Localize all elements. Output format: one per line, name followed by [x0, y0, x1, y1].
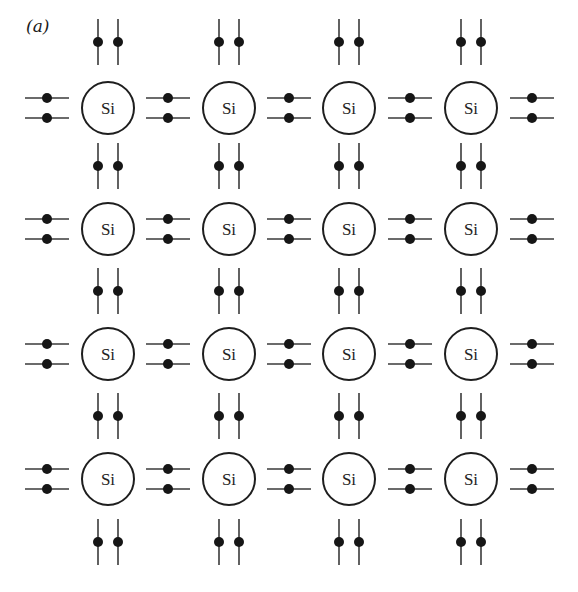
horizontal-bond-pair — [510, 339, 554, 369]
electron-dot — [234, 161, 244, 171]
vertical-bond-pair — [93, 519, 123, 565]
electron-dot — [163, 214, 173, 224]
electron-dot — [42, 214, 52, 224]
horizontal-bond-pair — [388, 339, 432, 369]
horizontal-bond-pair — [510, 214, 554, 244]
atom-symbol: Si — [222, 470, 236, 489]
atom-symbol: Si — [101, 220, 115, 239]
silicon-atom: Si — [203, 328, 255, 380]
atom-symbol: Si — [222, 345, 236, 364]
vertical-bond-pair — [93, 393, 123, 439]
electron-dot — [476, 537, 486, 547]
electron-dot — [234, 286, 244, 296]
vertical-bond-pair — [334, 268, 364, 314]
electron-dot — [163, 113, 173, 123]
electron-dot — [42, 113, 52, 123]
horizontal-bond-pair — [388, 214, 432, 244]
electron-dot — [42, 464, 52, 474]
electron-dot — [476, 161, 486, 171]
electron-dot — [527, 484, 537, 494]
vertical-bond-pair — [214, 143, 244, 189]
vertical-bond-pair — [214, 393, 244, 439]
electron-dot — [334, 37, 344, 47]
silicon-atom: Si — [323, 203, 375, 255]
vertical-bond-pair — [334, 393, 364, 439]
vertical-bond-pair — [334, 19, 364, 65]
silicon-atom: Si — [445, 453, 497, 505]
electron-dot — [163, 464, 173, 474]
electron-dot — [476, 286, 486, 296]
electron-dot — [113, 537, 123, 547]
electron-dot — [405, 113, 415, 123]
horizontal-bond-pair — [388, 464, 432, 494]
atom-symbol: Si — [464, 345, 478, 364]
atom-symbol: Si — [101, 99, 115, 118]
electron-dot — [93, 286, 103, 296]
electron-dot — [354, 161, 364, 171]
electron-dot — [284, 113, 294, 123]
atom-symbol: Si — [464, 470, 478, 489]
vertical-bond-pair — [456, 143, 486, 189]
electron-dot — [163, 234, 173, 244]
electron-dot — [354, 37, 364, 47]
electron-dot — [284, 234, 294, 244]
electron-dot — [527, 93, 537, 103]
vertical-bond-pair — [456, 19, 486, 65]
electron-dot — [163, 339, 173, 349]
electron-dot — [42, 359, 52, 369]
electron-dot — [527, 464, 537, 474]
electron-dot — [113, 286, 123, 296]
electron-dot — [476, 411, 486, 421]
vertical-bond-pair — [334, 519, 364, 565]
vertical-bond-pair — [456, 519, 486, 565]
electron-dot — [527, 339, 537, 349]
atom-symbol: Si — [222, 99, 236, 118]
horizontal-bond-pair — [267, 214, 311, 244]
horizontal-bond-pair — [510, 93, 554, 123]
silicon-atoms: SiSiSiSiSiSiSiSiSiSiSiSiSiSiSiSi — [82, 82, 497, 505]
electron-dot — [214, 161, 224, 171]
atom-symbol: Si — [101, 470, 115, 489]
vertical-bond-pair — [214, 19, 244, 65]
silicon-atom: Si — [323, 328, 375, 380]
electron-dot — [42, 93, 52, 103]
horizontal-bond-pair — [25, 214, 69, 244]
electron-dot — [113, 37, 123, 47]
electron-dot — [234, 411, 244, 421]
silicon-atom: Si — [323, 453, 375, 505]
horizontal-bond-pair — [25, 464, 69, 494]
electron-dot — [93, 161, 103, 171]
silicon-atom: Si — [203, 203, 255, 255]
atom-symbol: Si — [342, 345, 356, 364]
vertical-bond-pair — [93, 19, 123, 65]
horizontal-bond-pair — [146, 93, 190, 123]
electron-dot — [334, 537, 344, 547]
electron-dot — [284, 93, 294, 103]
vertical-bond-pair — [334, 143, 364, 189]
atom-symbol: Si — [464, 99, 478, 118]
electron-dot — [284, 484, 294, 494]
atom-symbol: Si — [464, 220, 478, 239]
silicon-atom: Si — [323, 82, 375, 134]
electron-dot — [405, 234, 415, 244]
electron-dot — [234, 37, 244, 47]
electron-dot — [42, 484, 52, 494]
electron-dot — [354, 286, 364, 296]
electron-dot — [93, 37, 103, 47]
electron-dot — [234, 537, 244, 547]
electron-dot — [405, 484, 415, 494]
horizontal-bond-pair — [146, 214, 190, 244]
vertical-bond-pair — [456, 268, 486, 314]
horizontal-bond-pair — [388, 93, 432, 123]
electron-dot — [113, 161, 123, 171]
vertical-bond-pair — [214, 519, 244, 565]
electron-dot — [93, 411, 103, 421]
silicon-atom: Si — [82, 82, 134, 134]
electron-dot — [405, 214, 415, 224]
horizontal-bond-pair — [25, 339, 69, 369]
electron-dot — [334, 411, 344, 421]
electron-dot — [527, 214, 537, 224]
electron-dot — [405, 339, 415, 349]
vertical-bond-pair — [93, 143, 123, 189]
electron-dot — [163, 359, 173, 369]
